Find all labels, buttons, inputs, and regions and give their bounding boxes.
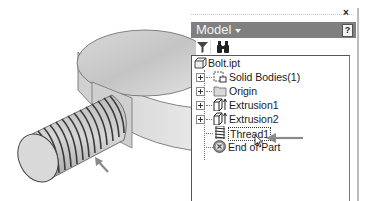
tree-connector: [206, 77, 212, 78]
browser-toolbar: [191, 39, 356, 55]
tree-node-extrusion1[interactable]: Extrusion1: [192, 98, 342, 112]
tree-connector: [204, 133, 213, 134]
tree-label: Extrusion1: [229, 98, 279, 112]
thread-annotation-arrow: [95, 157, 108, 172]
model-dropdown[interactable]: Model: [196, 23, 241, 37]
toolbar-divider: [210, 41, 211, 54]
tree-connector: [206, 119, 212, 120]
tree-node-origin[interactable]: Origin: [192, 84, 342, 98]
help-button[interactable]: ?: [342, 24, 353, 37]
close-icon[interactable]: ×: [343, 8, 349, 18]
thread-icon: [213, 126, 227, 139]
solid-bodies-icon: [213, 71, 227, 83]
expand-toggle[interactable]: [196, 73, 205, 82]
panel-border: [357, 8, 359, 201]
panel-title: Model: [196, 22, 231, 37]
filter-icon[interactable]: [197, 42, 208, 53]
part-icon: [194, 57, 207, 69]
extrusion-icon: [213, 98, 227, 111]
expand-toggle[interactable]: [196, 87, 205, 96]
extrusion-icon: [213, 112, 227, 125]
3d-viewport[interactable]: [0, 0, 196, 201]
tree-connector: [206, 105, 212, 106]
tree-label: Solid Bodies(1): [229, 70, 300, 84]
tree-label: Origin: [229, 84, 257, 98]
panel-top-border: [191, 14, 354, 15]
tree-label: Bolt.ipt: [208, 56, 240, 70]
folder-icon: [213, 85, 227, 97]
expand-toggle[interactable]: [196, 101, 205, 110]
expand-toggle[interactable]: [196, 115, 205, 124]
chevron-down-icon: [235, 29, 241, 33]
tree-node-extrusion2[interactable]: Extrusion2: [192, 112, 342, 126]
tree-node-solid-bodies[interactable]: Solid Bodies(1): [192, 70, 342, 84]
tree-connector: [204, 147, 213, 148]
tree-label: Extrusion2: [229, 112, 279, 126]
tree-connector: [206, 91, 212, 92]
bolt-model: [0, 0, 196, 201]
thread1-annotation-arrow: [265, 132, 305, 144]
panel-header: Model ?: [191, 22, 356, 38]
model-browser-panel: × Model ? Bolt.ipt: [191, 0, 362, 201]
binoculars-icon[interactable]: [216, 41, 230, 53]
model-tree[interactable]: Bolt.ipt Solid Bodies(1) Origin: [191, 55, 350, 201]
end-of-part-icon: [213, 140, 226, 153]
